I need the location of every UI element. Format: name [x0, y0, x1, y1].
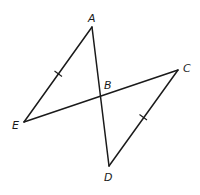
label-b: B	[104, 79, 112, 92]
tick-mark-ae	[55, 71, 63, 77]
label-d: D	[104, 171, 112, 184]
label-e: E	[12, 119, 19, 132]
segment-ae	[24, 27, 92, 122]
label-a: A	[87, 12, 96, 25]
label-c: C	[183, 62, 191, 75]
segment-ec	[24, 70, 178, 122]
geometry-diagram: A B C D E	[0, 0, 200, 195]
